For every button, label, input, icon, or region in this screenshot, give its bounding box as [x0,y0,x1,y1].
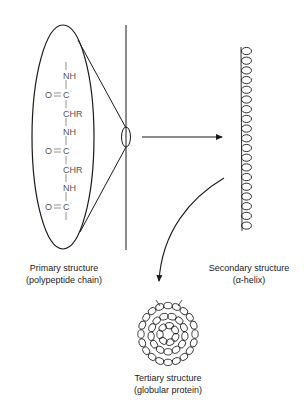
chem-c-2: C [63,146,70,156]
chem-nh-3: NH [63,183,76,193]
zoom-cone-top-line [78,40,126,128]
secondary-structure-title: Secondary structure [194,262,304,274]
chem-o-3: O [45,202,52,212]
primary-magnified-ellipse [32,25,94,249]
tertiary-structure-label: Tertiary structure (globular protein) [108,372,228,396]
chemical-chain [54,62,66,220]
chem-o-2: O [45,146,52,156]
chem-c-3: C [63,202,70,212]
chem-nh-2: NH [63,127,76,137]
tertiary-structure-title: Tertiary structure [108,372,228,384]
globular-protein-icon [138,300,198,366]
chem-c-1: C [63,90,70,100]
chem-o-1: O [45,90,52,100]
secondary-structure-subtitle: (α-helix) [194,274,304,286]
primary-structure-label: Primary structure (polypeptide chain) [4,262,124,286]
chem-chr-2: CHR [63,165,83,175]
chem-chr-1: CHR [63,109,83,119]
zoom-cone-bottom-line [80,147,126,232]
primary-structure-subtitle: (polypeptide chain) [4,274,124,286]
primary-structure-title: Primary structure [4,262,124,274]
chem-nh-1: NH [63,71,76,81]
secondary-structure-label: Secondary structure (α-helix) [194,262,304,286]
alpha-helix-icon [241,47,252,231]
protein-structure-diagram: NH O C CHR NH O C CHR NH O C [0,0,304,419]
tertiary-structure-subtitle: (globular protein) [108,384,228,396]
